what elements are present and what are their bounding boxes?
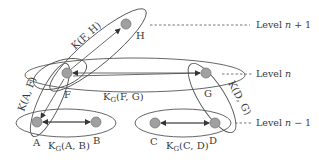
group-fh-ellipse (42, 0, 155, 101)
group-label-cd: KG(C, D) (166, 140, 209, 153)
node-a (32, 117, 42, 127)
node-g (201, 68, 211, 78)
group-label-dg: K(D, G) (226, 79, 253, 117)
node-label-f: F (64, 89, 71, 100)
node-label-c: C (150, 136, 158, 147)
node-d (210, 118, 220, 128)
level-label-n-plus-1: Level n + 1 (256, 19, 311, 30)
node-h (121, 19, 131, 29)
group-fg-ellipse (25, 58, 245, 92)
level-label-n: Level n (256, 68, 291, 79)
node-b (91, 117, 101, 127)
node-label-a: A (32, 137, 41, 148)
node-label-g: G (204, 88, 212, 99)
hierarchy-diagram: H F G A B C D K(F, H) K(A, F) K(D, G) KG… (0, 0, 319, 166)
node-f (62, 68, 72, 78)
node-label-d: D (209, 135, 217, 146)
group-label-ab: KG(A, B) (48, 140, 90, 153)
group-f-inner-ellipse (29, 52, 91, 96)
node-label-h: H (136, 30, 145, 41)
node-c (150, 118, 160, 128)
arrow-f-to-g (73, 73, 200, 76)
group-label-fg: KG(F, G) (103, 91, 144, 104)
node-label-b: B (93, 135, 100, 146)
level-label-n-minus-1: Level n − 1 (256, 117, 311, 128)
